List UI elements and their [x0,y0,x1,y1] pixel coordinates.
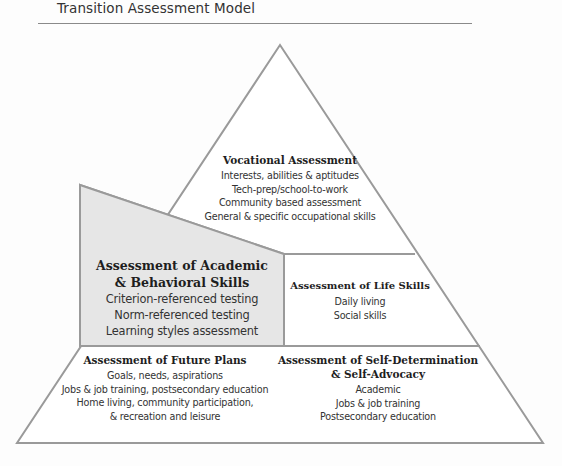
life-skills-item: Daily living [284,295,436,309]
self-determination-item: Jobs & job training [270,397,486,411]
self-determination-heading-line1: Assessment of Self-Determination [270,353,486,367]
self-determination-item: Postsecondary education [270,410,486,424]
academic-block: Assessment of Academic & Behavioral Skil… [80,257,284,339]
future-plans-item: & recreation and leisure [50,410,280,424]
future-plans-block: Assessment of Future Plans Goals, needs,… [50,353,280,423]
future-plans-item: Jobs & job training, postsecondary educa… [50,383,280,397]
vocational-item: Tech-prep/school-to-work [180,183,400,197]
life-skills-heading: Assessment of Life Skills [284,279,436,293]
academic-item: Criterion-referenced testing [80,291,284,307]
vocational-item: General & specific occupational skills [180,210,400,224]
future-plans-heading: Assessment of Future Plans [50,353,280,367]
vocational-item: Interests, abilities & aptitudes [180,169,400,183]
self-determination-heading-line2: & Self-Advocacy [270,367,486,381]
vocational-block: Vocational Assessment Interests, abiliti… [180,153,400,223]
life-skills-block: Assessment of Life Skills Daily living S… [284,279,436,322]
vocational-item: Community based assessment [180,196,400,210]
academic-heading-line2: & Behavioral Skills [80,274,284,291]
vocational-heading: Vocational Assessment [180,153,400,167]
self-determination-item: Academic [270,383,486,397]
self-determination-block: Assessment of Self-Determination & Self-… [270,353,486,424]
future-plans-item: Goals, needs, aspirations [50,369,280,383]
academic-item: Norm-referenced testing [80,307,284,323]
life-skills-item: Social skills [284,309,436,323]
future-plans-item: Home living, community participation, [50,396,280,410]
academic-item: Learning styles assessment [80,323,284,339]
academic-heading-line1: Assessment of Academic [80,257,284,274]
